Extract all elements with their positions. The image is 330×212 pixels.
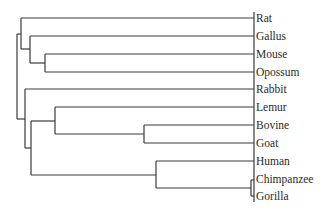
leaf-label-bovine: Bovine: [256, 118, 289, 132]
dendrogram-branches: [17, 12, 254, 202]
leaf-label-opossum: Opossum: [256, 65, 299, 79]
leaf-label-rat: Rat: [256, 11, 272, 25]
leaf-label-rabbit: Rabbit: [256, 82, 287, 96]
leaf-label-gallus: Gallus: [256, 29, 286, 43]
leaf-label-human: Human: [256, 154, 290, 168]
leaf-label-chimpanzee: Chimpanzee: [256, 172, 313, 186]
leaf-label-gorilla: Gorilla: [256, 189, 289, 203]
leaf-label-mouse: Mouse: [256, 47, 287, 61]
leaf-label-lemur: Lemur: [256, 100, 287, 114]
leaf-label-goat: Goat: [256, 136, 278, 150]
